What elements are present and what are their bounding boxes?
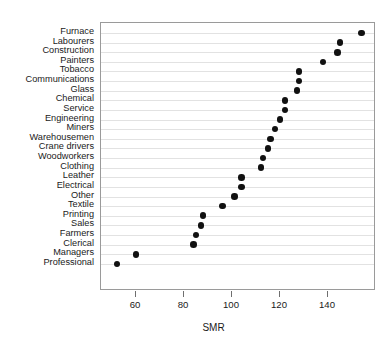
gridline	[101, 235, 374, 236]
data-point	[200, 212, 207, 219]
x-tick-label: 120	[271, 299, 287, 310]
data-point	[238, 174, 245, 181]
data-point	[296, 78, 303, 85]
dot-plot-figure: FurnaceLabourersConstructionPaintersToba…	[0, 0, 389, 353]
x-tick	[135, 291, 136, 297]
data-point	[265, 145, 272, 152]
data-point	[198, 222, 205, 229]
gridline	[101, 206, 374, 207]
category-axis: FurnaceLabourersConstructionPaintersToba…	[0, 0, 97, 353]
gridline	[101, 129, 374, 130]
data-point	[337, 39, 344, 46]
gridline	[101, 264, 374, 265]
data-point	[114, 261, 121, 268]
data-point	[358, 30, 365, 37]
x-axis-title-text: SMR	[202, 322, 224, 333]
gridline	[101, 71, 374, 72]
data-point	[258, 164, 265, 171]
gridline	[101, 139, 374, 140]
gridline	[101, 100, 374, 101]
data-point	[277, 116, 284, 123]
gridline	[101, 254, 374, 255]
data-point	[282, 97, 289, 104]
category-label: Professional	[0, 258, 94, 267]
gridline	[101, 81, 374, 82]
gridline	[101, 168, 374, 169]
x-tick-label: 140	[319, 299, 335, 310]
plot-panel	[100, 22, 375, 290]
gridline	[101, 110, 374, 111]
x-tick	[327, 291, 328, 297]
data-point	[272, 126, 279, 133]
data-point	[294, 87, 301, 94]
x-tick	[231, 291, 232, 297]
data-point	[260, 155, 267, 162]
x-tick-label: 100	[223, 299, 239, 310]
gridline	[101, 52, 374, 53]
data-point	[193, 232, 200, 239]
data-point	[238, 184, 245, 191]
gridline	[101, 148, 374, 149]
gridline	[101, 225, 374, 226]
gridline	[101, 62, 374, 63]
gridline	[101, 33, 374, 34]
x-tick-label: 80	[178, 299, 189, 310]
gridline	[101, 158, 374, 159]
data-point	[296, 68, 303, 75]
gridline	[101, 120, 374, 121]
x-tick	[183, 291, 184, 297]
data-point	[267, 136, 274, 143]
data-point	[133, 251, 140, 258]
gridline	[101, 216, 374, 217]
x-tick-label: 60	[130, 299, 141, 310]
x-tick	[279, 291, 280, 297]
data-point	[190, 241, 197, 248]
data-point	[219, 203, 226, 210]
gridline	[101, 245, 374, 246]
data-point	[231, 193, 238, 200]
data-point	[320, 59, 327, 66]
data-point	[282, 107, 289, 114]
data-point	[334, 49, 341, 56]
gridline	[101, 43, 374, 44]
gridline	[101, 91, 374, 92]
